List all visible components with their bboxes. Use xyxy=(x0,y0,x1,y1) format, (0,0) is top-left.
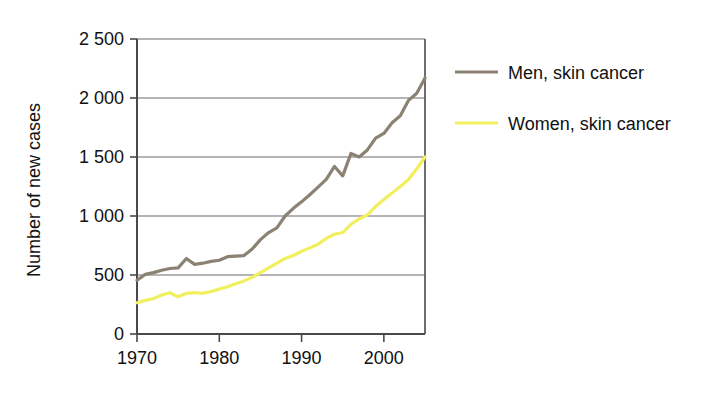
chart-figure: 05001 0001 5002 0002 500 197019801990200… xyxy=(0,0,710,396)
x-tick-label-1990: 1990 xyxy=(282,348,322,368)
gridlines xyxy=(137,39,425,275)
y-tick-label-500: 500 xyxy=(94,265,124,285)
x-tick-label-2000: 2000 xyxy=(364,348,404,368)
series-line-0 xyxy=(137,78,425,280)
y-tick-label-1500: 1 500 xyxy=(79,147,124,167)
y-tick-label-0: 0 xyxy=(114,324,124,344)
y-tick-label-2000: 2 000 xyxy=(79,88,124,108)
y-tick-labels: 05001 0001 5002 0002 500 xyxy=(79,29,137,344)
line-chart: 05001 0001 5002 0002 500 197019801990200… xyxy=(0,0,710,396)
legend-label-0: Men, skin cancer xyxy=(508,63,644,83)
x-tick-labels: 1970198019902000 xyxy=(117,334,404,368)
legend-label-1: Women, skin cancer xyxy=(508,114,671,134)
series-line-1 xyxy=(137,157,425,303)
data-series xyxy=(137,78,425,303)
axis-lines xyxy=(137,39,425,334)
x-tick-label-1980: 1980 xyxy=(199,348,239,368)
y-tick-label-2500: 2 500 xyxy=(79,29,124,49)
chart-legend: Men, skin cancerWomen, skin cancer xyxy=(455,63,671,134)
y-tick-label-1000: 1 000 xyxy=(79,206,124,226)
x-tick-label-1970: 1970 xyxy=(117,348,157,368)
y-axis-title: Number of new cases xyxy=(24,103,44,277)
